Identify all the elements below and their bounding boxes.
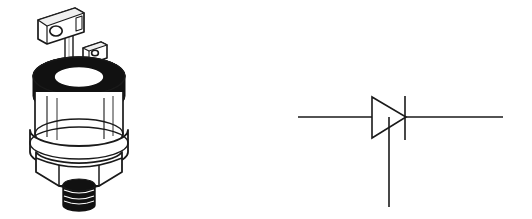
- sensor-drawing-svg: [0, 0, 266, 219]
- diode-geometry: [298, 96, 503, 207]
- large-terminal-hole: [50, 26, 62, 36]
- schematic-symbol: Diode schematic symbol: horizontal condu…: [266, 0, 532, 219]
- diode-symbol-svg: [266, 0, 532, 219]
- large-terminal-tab: [38, 8, 84, 44]
- threaded-stub: [63, 179, 95, 211]
- upper-body: [35, 92, 123, 149]
- small-terminal-hole: [92, 50, 99, 56]
- sensor-illustration: Line-art drawing of a threaded pressure …: [0, 0, 266, 219]
- figure-root: Line-art drawing of a threaded pressure …: [0, 0, 532, 219]
- collar-bore: [54, 67, 104, 88]
